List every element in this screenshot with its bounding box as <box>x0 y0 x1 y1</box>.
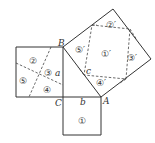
piece-3: ③ <box>44 68 52 78</box>
vertex-a: A <box>102 96 110 106</box>
piece-2: ② <box>29 56 37 66</box>
vertex-b: B <box>57 38 65 48</box>
pythagorean-diagram: ② ③ ④ ⑤ ① ①′ ②′ ③′ ④′ ⑤′ B C A a b c <box>0 0 155 143</box>
diagram-canvas: ② ③ ④ ⑤ ① ①′ ②′ ③′ ④′ ⑤′ B C A a b c <box>0 0 155 143</box>
piece-4: ④ <box>43 85 51 95</box>
dash-ext-3 <box>120 79 126 83</box>
dash-ext-2 <box>130 29 137 40</box>
vertex-c: C <box>55 98 62 108</box>
piece-2-prime: ②′ <box>106 20 116 30</box>
piece-1-prime: ①′ <box>101 49 111 59</box>
side-a: a <box>55 68 60 78</box>
side-c: c <box>86 66 91 76</box>
piece-3-prime: ③′ <box>127 53 137 63</box>
piece-5: ⑤ <box>19 76 27 86</box>
piece-4-prime: ④′ <box>96 78 106 88</box>
piece-5-prime: ⑤′ <box>75 45 85 55</box>
piece-1: ① <box>78 116 86 126</box>
side-b: b <box>80 97 86 107</box>
